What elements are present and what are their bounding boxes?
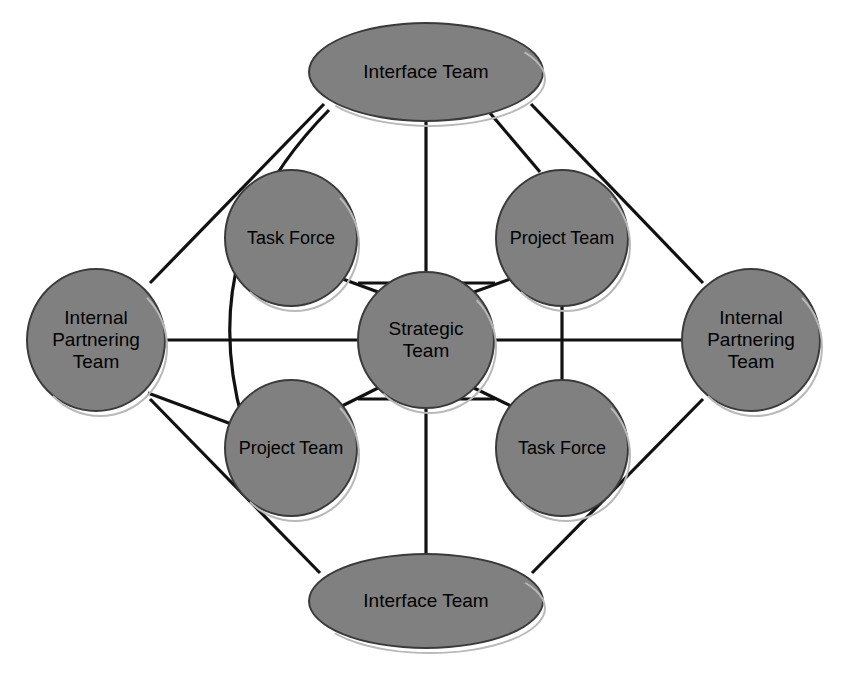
node-label: Project Team (506, 228, 619, 249)
node-label: Internal Partnering Team (683, 307, 819, 373)
node-project-team-top[interactable]: Project Team (495, 169, 629, 307)
edge-strategic-team-to-project-team-top (474, 278, 513, 292)
node-task-force-bottom[interactable]: Task Force (495, 379, 629, 517)
node-interface-bottom[interactable]: Interface Team (308, 553, 544, 649)
node-project-team-bottom[interactable]: Project Team (224, 379, 358, 517)
node-label: Task Force (243, 228, 339, 249)
node-label: Interface Team (359, 590, 492, 612)
node-label: Project Team (235, 438, 348, 459)
node-label: Interface Team (359, 61, 492, 83)
node-label: Internal Partnering Team (28, 307, 164, 373)
node-label: Task Force (514, 438, 610, 459)
node-internal-right[interactable]: Internal Partnering Team (681, 268, 821, 412)
node-label: Strategic Team (359, 318, 493, 362)
node-strategic-team[interactable]: Strategic Team (357, 271, 495, 409)
node-interface-top[interactable]: Interface Team (308, 22, 544, 122)
diagram-canvas: Interface TeamInterface TeamInternal Par… (0, 0, 852, 691)
node-task-force-top[interactable]: Task Force (224, 169, 358, 307)
node-internal-left[interactable]: Internal Partnering Team (26, 268, 166, 412)
edge-interface-top-to-project-team-top (490, 113, 540, 172)
